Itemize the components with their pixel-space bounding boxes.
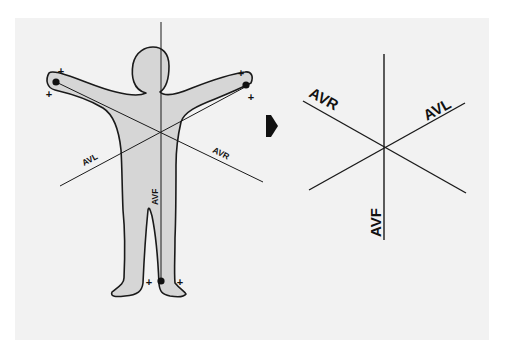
right-avf-label: AVF [367, 208, 384, 237]
plus-sign: + [58, 65, 64, 77]
plus-sign: + [238, 67, 244, 79]
left-avr-label: AVR [211, 145, 231, 162]
plus-sign: + [46, 88, 52, 100]
body-figure [47, 47, 252, 297]
body-outline [47, 47, 252, 297]
right-arrow-icon [266, 115, 278, 137]
left-avf-label: AVF [150, 189, 160, 205]
left-avl-label: AVL [80, 151, 99, 168]
left-arm-electrode-icon [242, 81, 249, 88]
plus-sign: + [146, 276, 152, 288]
plus-sign: + [177, 276, 183, 288]
augmented-leads-figure: + + + + + + AVL AVR AVF AVR AVL AVF [0, 0, 506, 358]
right-arm-electrode-icon [52, 78, 59, 85]
right-axes [303, 54, 466, 240]
right-avr-label: AVR [307, 84, 342, 114]
left-leg-electrode-icon [157, 277, 164, 284]
plus-sign: + [248, 91, 254, 103]
